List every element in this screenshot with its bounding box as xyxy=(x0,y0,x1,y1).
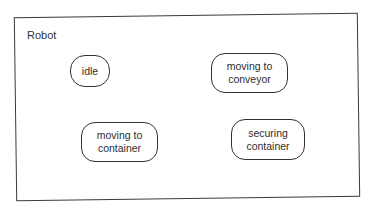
state-idle: idle xyxy=(70,55,110,87)
state-label-line: container xyxy=(246,140,289,153)
state-label-line: securing xyxy=(246,127,289,140)
state-label-line: moving to xyxy=(227,60,273,73)
state-moving-to-container: moving to container xyxy=(81,122,158,162)
state-moving-to-conveyor: moving to conveyor xyxy=(211,53,288,93)
state-securing-container: securing container xyxy=(231,119,305,160)
state-label-line: container xyxy=(97,142,143,155)
state-label-line: moving to xyxy=(97,129,143,142)
composite-state-title: Robot xyxy=(27,29,56,41)
state-label-line: conveyor xyxy=(227,73,273,86)
state-label-line: idle xyxy=(82,65,98,78)
robot-composite-state-frame xyxy=(14,13,360,201)
